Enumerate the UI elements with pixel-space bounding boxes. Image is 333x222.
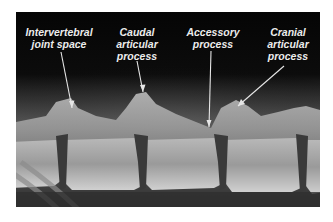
- vertebra-4: [224, 138, 303, 192]
- vertebra-3: [144, 138, 224, 190]
- label-cranial-articular-process: Cranial articular process: [260, 26, 316, 62]
- vertebra-2: [64, 138, 144, 190]
- radiograph-figure: Intervertebral joint space Caudal articu…: [16, 12, 320, 207]
- label-intervertebral-joint-space: Intervertebral joint space: [20, 26, 98, 50]
- label-accessory-process: Accessory process: [180, 26, 246, 50]
- label-caudal-articular-process: Caudal articular process: [108, 26, 166, 62]
- vertebra-5: [306, 140, 320, 194]
